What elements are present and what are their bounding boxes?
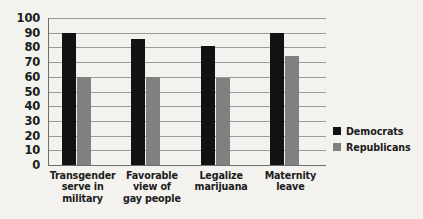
category-label-line: military: [48, 193, 117, 204]
y-tick-label: 20: [24, 129, 40, 143]
y-tick-label: 50: [24, 85, 40, 99]
category-label-line: serve in: [48, 181, 117, 192]
category-label-line: gay people: [117, 193, 186, 204]
x-axis-category-labels: Transgenderserve inmilitaryFavorableview…: [48, 170, 325, 214]
bars-layer: [49, 18, 326, 165]
category-label: Transgenderserve inmilitary: [48, 170, 117, 204]
category-label-line: Maternity: [256, 170, 325, 181]
plot-area: [48, 18, 326, 166]
bar-democrats: [131, 39, 145, 165]
category-label-line: marijuana: [187, 181, 256, 192]
category-label-line: leave: [256, 181, 325, 192]
y-tick-label: 0: [32, 158, 40, 172]
bar-democrats: [62, 33, 76, 165]
category-label: Legalizemarijuana: [187, 170, 256, 193]
bar-democrats: [270, 33, 284, 165]
bar-republicans: [77, 77, 91, 165]
y-tick-label: 100: [17, 11, 40, 25]
y-tick-label: 40: [24, 99, 40, 113]
bar-group: [58, 18, 91, 165]
bar-group: [127, 18, 160, 165]
y-tick-label: 90: [24, 26, 40, 40]
y-tick-label: 80: [24, 40, 40, 54]
category-label-line: view of: [117, 181, 186, 192]
bar-group: [266, 18, 299, 165]
legend-item-democrats: Democrats: [333, 124, 411, 138]
bar-group: [197, 18, 230, 165]
y-axis: 1009080706050403020100: [0, 18, 44, 165]
category-label: Maternityleave: [256, 170, 325, 193]
category-label-line: Transgender: [48, 170, 117, 181]
y-tick-label: 10: [24, 143, 40, 157]
legend-label: Republicans: [346, 142, 411, 153]
bar-democrats: [201, 46, 215, 165]
category-label-line: Favorable: [117, 170, 186, 181]
category-label-line: Legalize: [187, 170, 256, 181]
chart-legend: DemocratsRepublicans: [333, 124, 411, 156]
bar-republicans: [285, 56, 299, 165]
y-tick-label: 70: [24, 55, 40, 69]
bar-republicans: [146, 77, 160, 165]
bar-republicans: [216, 78, 230, 165]
legend-item-republicans: Republicans: [333, 140, 411, 154]
y-tick-label: 30: [24, 114, 40, 128]
legend-swatch-icon: [333, 143, 341, 151]
legend-label: Democrats: [346, 126, 403, 137]
legend-swatch-icon: [333, 127, 341, 135]
bar-chart-figure: 1009080706050403020100 Transgenderserve …: [0, 0, 423, 219]
y-tick-label: 60: [24, 70, 40, 84]
category-label: Favorableview ofgay people: [117, 170, 186, 204]
